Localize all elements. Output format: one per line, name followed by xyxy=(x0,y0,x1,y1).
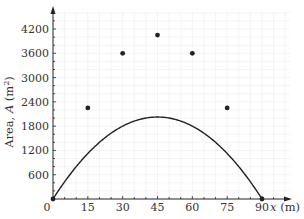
x-tick-label: 75 xyxy=(220,201,234,214)
grid xyxy=(53,12,290,199)
x-tick-label: 45 xyxy=(151,201,165,214)
x-tick-label: 15 xyxy=(81,201,95,214)
area-chart: 153045607590600120018002400300036004200 … xyxy=(0,0,304,219)
data-point xyxy=(85,106,90,111)
x-tick-label: 90 xyxy=(255,201,269,214)
data-point xyxy=(260,197,265,202)
y-axis-label: Area, A (m2) xyxy=(2,76,17,149)
y-label-unit: (m xyxy=(2,86,16,105)
data-point xyxy=(225,106,230,111)
y-tick-label: 1200 xyxy=(21,144,49,157)
axes xyxy=(51,6,293,202)
y-axis-arrow-icon xyxy=(51,6,56,14)
x-axis-label: x (m) xyxy=(270,200,300,214)
x-unit: (m) xyxy=(277,200,301,214)
x-tick-label: 60 xyxy=(185,201,199,214)
x-tick-label: 30 xyxy=(116,201,130,214)
y-label-var: A xyxy=(2,105,16,114)
y-tick-label: 3600 xyxy=(21,47,49,60)
y-tick-label: 1800 xyxy=(21,120,49,133)
y-tick-label: 4200 xyxy=(21,23,49,36)
y-tick-label: 600 xyxy=(28,169,49,182)
y-label-close: ) xyxy=(2,76,16,81)
y-label-prefix: Area, xyxy=(2,113,16,149)
y-tick-label: 3000 xyxy=(21,72,49,85)
origin-label: 0 xyxy=(44,201,51,214)
y-tick-label: 2400 xyxy=(21,96,49,109)
data-point xyxy=(155,33,160,38)
data-point xyxy=(190,51,195,56)
data-point xyxy=(51,197,56,202)
data-point xyxy=(120,51,125,56)
